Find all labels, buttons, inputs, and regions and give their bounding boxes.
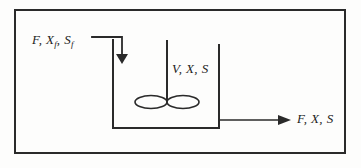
outlet-stream-label: F, X, S — [297, 112, 334, 125]
feed-stream-label: F, Xf, Sf — [32, 33, 74, 49]
outlet-symbol-F: F — [297, 111, 304, 126]
holdup-comma-1: , — [179, 61, 183, 76]
holdup-symbol-S: S — [202, 61, 209, 76]
outlet-comma-1: , — [304, 111, 308, 126]
outlet-arrowhead-icon — [278, 115, 291, 125]
feed-symbol-F: F — [32, 32, 39, 47]
impeller-blade-left — [135, 96, 167, 109]
outlet-symbol-S: S — [327, 111, 334, 126]
holdup-symbol-V: V — [172, 61, 179, 76]
figure-container: F, Xf, Sf V, X, S F, X, S — [0, 0, 361, 168]
process-diagram — [0, 0, 361, 168]
inlet-stream-line — [92, 37, 122, 54]
feed-comma-2: , — [57, 32, 61, 47]
outlet-comma-2: , — [319, 111, 323, 126]
inlet-arrowhead-icon — [116, 54, 128, 64]
impeller-blade-right — [167, 96, 199, 109]
holdup-comma-2: , — [194, 61, 198, 76]
reactor-contents-label: V, X, S — [172, 62, 209, 75]
feed-subscript-S: f — [71, 39, 74, 49]
feed-comma-1: , — [39, 32, 43, 47]
